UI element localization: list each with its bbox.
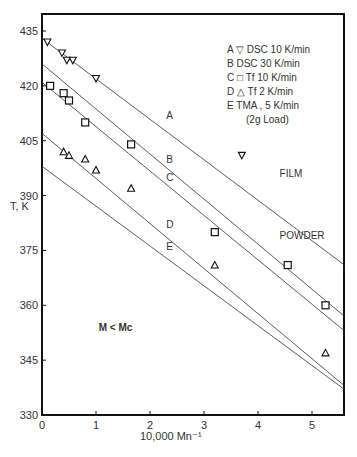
chart: 012345330345360375390405420435ABCDEFILMP…: [0, 0, 357, 457]
x-tick-label: 0: [39, 419, 45, 431]
legend-entry: (2g Load): [246, 114, 289, 125]
annotation: M < Mc: [99, 322, 133, 333]
line-label-a: A: [166, 110, 173, 121]
triangle-up-marker: [322, 349, 329, 356]
legend-entry: D △ Tf 2 K/min: [227, 86, 293, 97]
x-tick-label: 1: [93, 419, 99, 431]
square-marker: [82, 119, 89, 126]
triangle-up-marker: [211, 262, 218, 269]
square-marker: [66, 97, 73, 104]
annotation: FILM: [280, 168, 303, 179]
x-axis-label: 10,000 Mn⁻¹: [140, 430, 202, 443]
square-marker: [128, 141, 135, 148]
y-tick-label: 375: [20, 244, 38, 256]
legend-entry: E TMA , 5 K/min: [227, 100, 299, 111]
triangle-up-marker: [93, 166, 100, 173]
triangle-up-marker: [128, 185, 135, 192]
legend-entry: C □ Tf 10 K/min: [227, 72, 297, 83]
square-marker: [211, 229, 218, 236]
y-tick-label: 420: [20, 80, 38, 92]
y-tick-label: 435: [20, 25, 38, 37]
line-label-e: E: [166, 241, 173, 252]
square-marker: [47, 82, 54, 89]
square-marker: [60, 90, 67, 97]
square-marker: [322, 302, 329, 309]
line-label-b: B: [166, 154, 173, 165]
legend-entry: A ▽ DSC 10 K/min: [227, 44, 310, 55]
x-tick-label: 5: [309, 419, 315, 431]
y-tick-label: 360: [20, 299, 38, 311]
fit-line-e: [42, 166, 344, 389]
line-label-d: D: [166, 219, 173, 230]
plot-frame: [42, 14, 344, 415]
y-tick-label: 405: [20, 135, 38, 147]
triangle-up-marker: [82, 156, 89, 163]
y-tick-label: 345: [20, 354, 38, 366]
line-label-c: C: [166, 172, 173, 183]
x-tick-label: 4: [255, 419, 261, 431]
y-tick-label: 330: [20, 409, 38, 421]
triangle-down-marker: [238, 152, 245, 159]
legend-entry: B DSC 30 K/min: [227, 58, 300, 69]
annotation: POWDER: [280, 230, 325, 241]
y-axis-label: T, K: [10, 200, 29, 212]
square-marker: [284, 262, 291, 269]
